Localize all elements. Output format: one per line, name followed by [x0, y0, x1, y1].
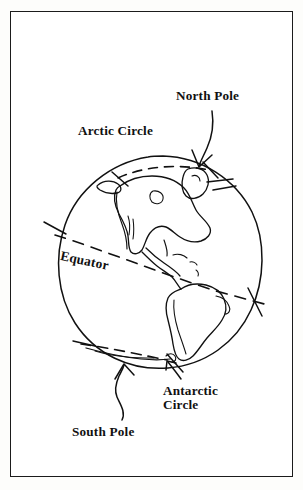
- label-arctic-circle: Arctic Circle: [78, 124, 153, 138]
- south-america-east-bulge: [216, 296, 230, 314]
- label-antarctic-circle: AntarcticCircle: [163, 384, 218, 413]
- south-america-outline: [166, 284, 226, 360]
- north-america-inner-detail: [128, 216, 130, 235]
- north-america-west-coast: [116, 192, 127, 249]
- label-north-pole: North Pole: [176, 89, 239, 103]
- figure-root: North Pole Arctic Circle Equator Antarct…: [0, 0, 303, 490]
- south-pole-arrow: [116, 365, 124, 420]
- north-america-inner-detail-2: [133, 219, 134, 239]
- arctic-circle-tick-right-outer2: [213, 186, 236, 190]
- caribbean-island-1: [173, 254, 187, 258]
- greenland-outline: [182, 168, 208, 199]
- globe-diagram-artwork: [0, 0, 303, 490]
- south-america-west-coast-detail: [174, 300, 186, 354]
- label-antarctic-circle-line2: Circle: [163, 398, 218, 412]
- caribbean-island-2: [190, 262, 197, 265]
- greenland-detail: [192, 175, 200, 181]
- central-america-outline-2: [146, 248, 180, 276]
- equator-tick-left: [44, 222, 66, 234]
- caribbean-island-3: [196, 270, 198, 276]
- north-america-outline: [115, 176, 211, 254]
- florida-peninsula: [164, 240, 167, 256]
- label-south-pole: South Pole: [72, 425, 134, 439]
- south-pole-arrow-head: [115, 364, 134, 379]
- antarctic-circle-arrow: [168, 362, 181, 379]
- hudson-bay: [150, 191, 163, 204]
- north-pole-arrow: [199, 111, 213, 166]
- label-antarctic-circle-line1: Antarctic: [163, 383, 218, 398]
